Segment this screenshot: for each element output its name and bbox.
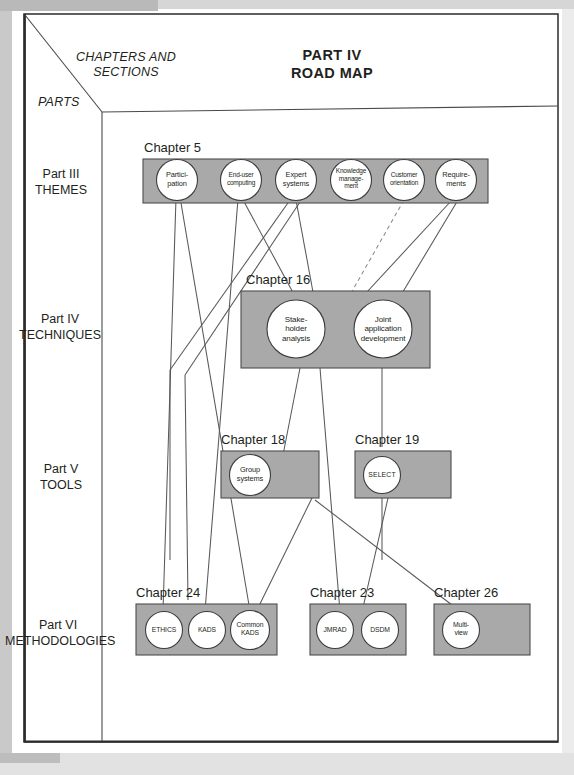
road-map-page: .band { fill:#a9a9a9; stroke:#4d4d4d; st… <box>0 0 574 775</box>
node-label-expert-systems: Expert systems <box>272 171 320 188</box>
part-label-3-name: THEMES <box>19 182 103 199</box>
part-label-5-number: Part V <box>19 461 103 478</box>
node-label-customer-orientation: Customer orientation <box>377 171 431 186</box>
chapter-label-24: Chapter 24 <box>136 585 200 600</box>
node-label-joint-application-development: Joint application development <box>353 315 413 343</box>
part-label-6-name: METHODOLOGIES <box>5 633 111 650</box>
node-label-stakeholder-analysis: Stake- holder analysis <box>271 315 321 343</box>
node-label-dsdm: DSDM <box>358 626 402 634</box>
node-label-select: SELECT <box>360 471 404 479</box>
node-label-kads: KADS <box>185 626 229 634</box>
part-label-3-number: Part III <box>19 166 103 183</box>
node-label-end-user-computing: End-user computing <box>215 171 267 186</box>
node-label-common-kads: Common KADS <box>228 621 272 637</box>
node-label-knowledge-management: Knowledge manage- ment <box>325 167 377 190</box>
node-label-group-systems: Group systems <box>226 466 274 483</box>
connector-lines <box>163 197 458 612</box>
chapter-label-23: Chapter 23 <box>310 585 374 600</box>
part-label-5-name: TOOLS <box>19 477 103 494</box>
chapter-label-19: Chapter 19 <box>355 432 419 447</box>
node-label-requirements: Require- ments <box>432 171 480 188</box>
part-label-6-number: Part VI <box>8 617 108 634</box>
road-map-diagram: .band { fill:#a9a9a9; stroke:#4d4d4d; st… <box>0 0 574 775</box>
part-label-4-number: Part IV <box>13 311 107 328</box>
chapter-label-16: Chapter 16 <box>246 272 310 287</box>
node-label-participation: Partici- pation <box>153 171 201 188</box>
node-label-ethics: ETHICS <box>142 626 186 634</box>
axis-label-parts: PARTS <box>38 95 98 110</box>
page-title-line2: ROAD MAP <box>232 63 432 84</box>
part-label-4-name: TECHNIQUES <box>13 327 107 344</box>
chapter-label-18: Chapter 18 <box>221 432 285 447</box>
chapter-label-5: Chapter 5 <box>144 140 201 155</box>
chapter-label-26: Chapter 26 <box>434 585 498 600</box>
axis-label-chapters-sections: CHAPTERS AND SECTIONS <box>66 50 186 80</box>
node-label-multiview: Multi- view <box>439 621 483 637</box>
node-label-jmrad: JMRAD <box>313 626 357 634</box>
